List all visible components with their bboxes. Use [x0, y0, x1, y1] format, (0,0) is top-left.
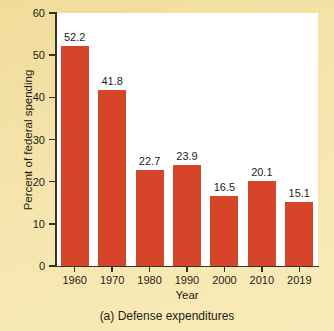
- x-axis-tick: [299, 266, 301, 272]
- bar-value-label: 16.5: [201, 181, 247, 193]
- y-axis-tick: [49, 97, 55, 99]
- bar-value-label: 52.2: [52, 31, 98, 43]
- y-axis-title-holder: Percent of federal spending: [6, 13, 28, 266]
- y-axis-title: Percent of federal spending: [22, 40, 34, 240]
- bar: [285, 202, 313, 266]
- bar: [248, 181, 276, 266]
- y-axis-tick: [49, 223, 55, 225]
- y-axis-tick: [49, 54, 55, 56]
- y-axis-line: [55, 12, 57, 267]
- bar-value-label: 20.1: [239, 166, 285, 178]
- y-axis-tick: [49, 265, 55, 267]
- y-axis-tick: [49, 181, 55, 183]
- bar: [210, 196, 238, 266]
- figure-caption: (a) Defense expenditures: [0, 309, 334, 323]
- bar-value-label: 23.9: [164, 150, 210, 162]
- x-axis-tick: [74, 266, 76, 272]
- bar-value-label: 41.8: [89, 75, 135, 87]
- x-axis-tick: [149, 266, 151, 272]
- x-axis-title: Year: [56, 289, 318, 301]
- bar: [136, 170, 164, 266]
- x-axis-tick: [186, 266, 188, 272]
- bar-value-label: 15.1: [276, 187, 322, 199]
- bar: [98, 90, 126, 266]
- bar: [173, 165, 201, 266]
- y-axis-tick: [49, 12, 55, 14]
- figure-panel: 0102030405060 19601970198019902000201020…: [0, 0, 334, 331]
- x-axis-tick: [111, 266, 113, 272]
- bar: [61, 46, 89, 266]
- x-axis-tick-label: 2019: [276, 274, 322, 286]
- y-axis-tick: [49, 139, 55, 141]
- x-axis-tick: [224, 266, 226, 272]
- x-axis-tick: [261, 266, 263, 272]
